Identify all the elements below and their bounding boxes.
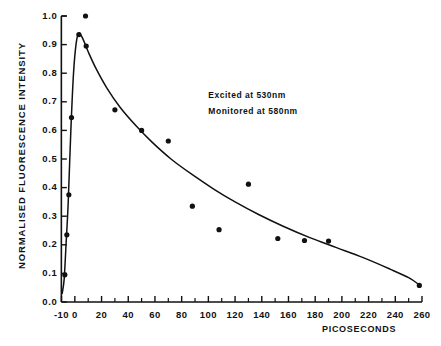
data-point bbox=[246, 182, 251, 187]
y-tick-label: 0.0 bbox=[19, 296, 57, 307]
data-point bbox=[62, 272, 67, 277]
data-point bbox=[302, 238, 307, 243]
x-tick-label: 260 bbox=[405, 309, 439, 320]
fitted-decay-curve bbox=[62, 33, 419, 293]
y-tick-label: 0.9 bbox=[19, 38, 57, 49]
data-point bbox=[139, 128, 144, 133]
y-tick-label: 0.7 bbox=[19, 95, 57, 106]
fluorescence-decay-figure: NORMALISED FLUORESCENCE INTENSITY PICOSE… bbox=[0, 0, 441, 346]
y-tick-label: 0.2 bbox=[19, 238, 57, 249]
data-point bbox=[216, 227, 221, 232]
data-point bbox=[112, 107, 117, 112]
data-point bbox=[64, 232, 69, 237]
data-point bbox=[83, 13, 88, 18]
data-point bbox=[326, 238, 331, 243]
y-tick-label: 0.8 bbox=[19, 67, 57, 78]
plot-canvas bbox=[0, 0, 441, 346]
plot-annotation: Excited at 530nm bbox=[208, 90, 285, 100]
data-point bbox=[190, 204, 195, 209]
y-tick-label: 0.1 bbox=[19, 267, 57, 278]
y-tick-label: 0.3 bbox=[19, 210, 57, 221]
y-tick-label: 0.5 bbox=[19, 153, 57, 164]
y-tick-label: 0.6 bbox=[19, 124, 57, 135]
data-point bbox=[275, 236, 280, 241]
y-tick-label: 1.0 bbox=[19, 10, 57, 21]
data-point bbox=[66, 192, 71, 197]
data-point bbox=[69, 115, 74, 120]
plot-annotation: Monitored at 580nm bbox=[208, 106, 297, 116]
data-point bbox=[166, 138, 171, 143]
data-point bbox=[76, 32, 81, 37]
y-tick-label: 0.4 bbox=[19, 181, 57, 192]
data-point bbox=[417, 283, 422, 288]
data-point bbox=[84, 43, 89, 48]
